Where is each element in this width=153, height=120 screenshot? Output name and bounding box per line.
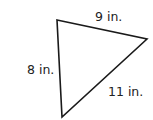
triangle-diagram [0,0,153,120]
triangle [57,20,147,117]
side-label-top: 9 in. [95,11,122,24]
side-label-right: 11 in. [108,86,143,99]
side-label-left: 8 in. [27,64,54,77]
